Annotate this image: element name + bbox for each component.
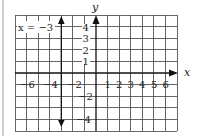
- down-arrow-icon: [58, 120, 65, 127]
- x-tick-label: 2: [116, 79, 122, 90]
- x-axis-label: x: [184, 66, 191, 79]
- coordinate-plane: x y x = −3 4 3 2 1 −2 −4 −6 −4: [0, 0, 199, 139]
- equation-label: x = −3: [18, 22, 53, 33]
- x-tick-label: −2: [67, 79, 82, 90]
- up-arrow-icon: [58, 16, 65, 24]
- y-tick-label: 4: [83, 22, 89, 33]
- y-tick-label: 1: [83, 56, 89, 67]
- y-tick-label: 2: [83, 45, 89, 56]
- line-x-equals-neg3: [58, 16, 65, 127]
- x-tick-label: 5: [151, 79, 157, 90]
- x-tick-label: 1: [105, 79, 111, 90]
- y-tick-label: −4: [76, 114, 91, 125]
- y-axis-arrow-icon: [93, 15, 100, 24]
- y-tick-label: −2: [78, 91, 93, 102]
- x-tick-label: 4: [139, 79, 145, 90]
- y-tick-label: 3: [83, 33, 89, 44]
- x-tick-label: 6: [163, 79, 169, 90]
- y-axis-label: y: [91, 1, 99, 14]
- x-tick-label: −4: [43, 79, 58, 90]
- coordinate-plane-figure: x y x = −3 4 3 2 1 −2 −4 −6 −4: [0, 0, 199, 139]
- x-tick-label: 3: [128, 79, 134, 90]
- x-tick-label: −6: [20, 79, 35, 90]
